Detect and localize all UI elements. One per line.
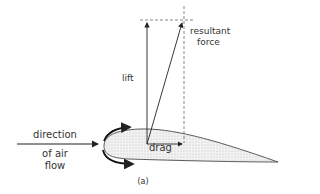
- resultant-force-arrow: [147, 23, 182, 144]
- of-air-label: of air: [30, 148, 80, 159]
- lift-label: lift: [122, 73, 134, 84]
- caption: (a): [130, 176, 156, 187]
- flow-label: flow: [30, 160, 80, 171]
- resultant-label: resultant: [190, 26, 230, 37]
- airfoil-shape: [104, 129, 278, 162]
- direction-label: direction: [30, 129, 80, 140]
- force-label: force: [197, 37, 220, 48]
- drag-label: drag: [149, 142, 172, 153]
